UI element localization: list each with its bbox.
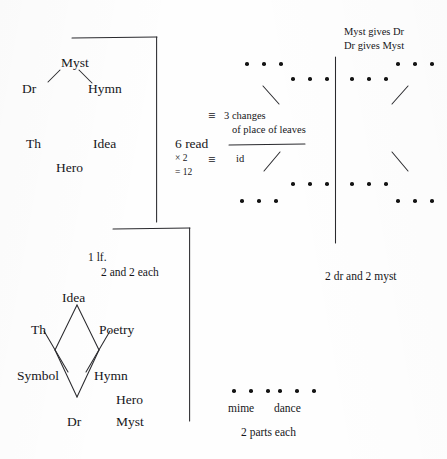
equivalence-entry-2-text: id <box>236 153 244 165</box>
bottom-note-line-2: 2 and 2 each <box>101 266 159 279</box>
tick-lower-right-backslash <box>392 152 408 171</box>
diamond-node-symbol: Symbol <box>17 368 59 383</box>
equivalence-symbol-1: ≡ <box>208 108 215 124</box>
diamond-node-th: Th <box>31 322 46 337</box>
diamond-node-dr: Dr <box>67 414 81 429</box>
dot-group-dance <box>278 389 316 393</box>
dot-group-lower-left-outer <box>240 199 278 203</box>
center-note-total: = 12 <box>175 167 192 178</box>
dot-group-upper-left-inner <box>291 77 329 81</box>
tree-node-dr: Dr <box>22 81 36 96</box>
tree-node-myst: Myst <box>61 55 89 70</box>
diamond-node-hymn: Hymn <box>94 368 128 383</box>
right-panel-heading-line-1: Myst gives Dr <box>344 26 404 38</box>
diamond-node-poetry: Poetry <box>99 322 134 337</box>
diamond-label-hero: Hero <box>116 392 143 407</box>
bottom-right-label-dance: dance <box>274 402 301 415</box>
center-note-multiplier: × 2 <box>175 153 187 164</box>
diamond-edge-idea-to-symbol <box>55 305 77 350</box>
dot-group-upper-left-outer <box>245 62 283 66</box>
center-note-count: 6 read <box>175 136 208 151</box>
tree-label-hero: Hero <box>56 160 83 175</box>
dot-group-lower-right-inner <box>350 182 388 186</box>
cross-stroke-th <box>44 331 68 372</box>
tree-label-idea: Idea <box>93 136 116 151</box>
dot-group-lower-left-inner <box>291 182 329 186</box>
right-panel-heading-line-2: Dr gives Myst <box>344 40 404 52</box>
six-read-connector-rule <box>229 144 305 145</box>
tick-upper-left-backslash <box>263 86 279 104</box>
equivalence-symbol-2: ≡ <box>208 152 215 168</box>
tick-lower-left-slash <box>264 152 280 171</box>
bottom-right-caption: 2 parts each <box>241 426 296 439</box>
diamond-node-idea: Idea <box>62 290 85 305</box>
bottom-note-line-1: 1 lf. <box>88 251 107 264</box>
diamond-edge-idea-to-hymn <box>77 305 99 350</box>
diamond-label-myst: Myst <box>116 414 144 429</box>
equivalence-entry-1-line-2: of place of leaves <box>232 124 306 136</box>
dot-group-lower-right-outer <box>396 199 434 203</box>
lower-bracket-horizontal <box>113 228 190 229</box>
branch-myst-to-dr <box>48 70 60 82</box>
dot-group-mime <box>232 389 270 393</box>
bottom-right-label-mime: mime <box>228 402 254 415</box>
equivalence-entry-1-line-1: 3 changes <box>224 110 266 122</box>
dot-group-upper-right-outer <box>396 62 434 66</box>
tick-upper-right-slash <box>392 86 408 104</box>
tree-label-th: Th <box>26 136 41 151</box>
manuscript-page: Myst Dr Hymn Th Idea Hero 6 read × 2 = 1… <box>0 0 447 459</box>
tree-node-hymn: Hymn <box>88 81 122 96</box>
cross-stroke-poetry <box>86 331 110 372</box>
upper-bracket-horizontal <box>72 37 157 38</box>
dot-group-upper-right-inner <box>350 77 388 81</box>
right-panel-caption: 2 dr and 2 myst <box>325 270 397 283</box>
